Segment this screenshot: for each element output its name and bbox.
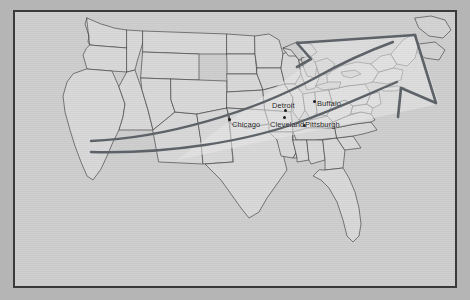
state-colorado — [171, 79, 227, 114]
state-north-dakota — [227, 34, 255, 54]
city-label-pittsburgh: Pittsburgh — [305, 120, 340, 129]
state-alabama — [307, 140, 325, 164]
city-dot-chicago — [228, 118, 231, 121]
city-label-cleveland: Cleveland — [270, 120, 304, 129]
state-south-dakota — [227, 54, 257, 74]
state-montana — [143, 31, 227, 54]
state-wyoming — [141, 52, 199, 80]
city-dot-cleveland — [283, 116, 286, 119]
map-frame — [13, 10, 457, 288]
map-canvas — [15, 12, 455, 286]
city-label-chicago: Chicago — [232, 120, 260, 129]
map-screenshot: ChicagoDetroitClevelandPittsburghBuffalo — [0, 0, 470, 300]
state-oregon — [83, 45, 127, 72]
city-label-detroit: Detroit — [272, 101, 295, 110]
city-dot-buffalo — [313, 100, 316, 103]
map-vector — [15, 12, 455, 286]
state-nebraska — [227, 74, 263, 92]
city-label-buffalo: Buffalo — [317, 99, 341, 108]
